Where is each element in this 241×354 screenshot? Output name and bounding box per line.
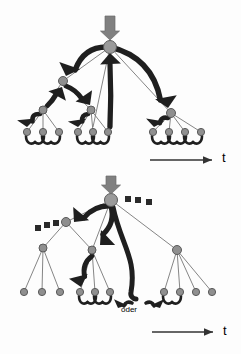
axis-label-t-bottom: t	[223, 323, 227, 338]
tree-node	[165, 128, 172, 135]
tree-node	[62, 218, 71, 227]
tree-node	[39, 128, 46, 135]
tree-node	[149, 128, 156, 135]
tree-node	[39, 244, 47, 252]
tree-node	[208, 288, 215, 295]
tree-node	[59, 77, 68, 86]
dashed-placeholder-r1	[135, 197, 141, 203]
tree-node	[104, 128, 111, 135]
dashed-placeholder-r0	[125, 196, 131, 202]
tree-node	[23, 128, 30, 135]
tree-node	[167, 109, 176, 118]
tree-node	[56, 288, 63, 295]
tree-node	[176, 288, 183, 295]
dashed-placeholder-l0	[53, 220, 59, 226]
figure-container: t t oder	[0, 0, 241, 354]
tree-node	[106, 288, 113, 295]
tree-node	[197, 128, 204, 135]
tree-node	[55, 128, 62, 135]
leaf-up-to-root-shaft	[110, 64, 111, 127]
tree-node	[160, 288, 167, 295]
dashed-placeholder-r2	[146, 199, 152, 205]
tree-node	[173, 246, 182, 255]
tree-node	[38, 288, 45, 295]
dashed-placeholder-l2	[35, 225, 41, 231]
tree-node	[39, 106, 47, 114]
axis-label-t-top: t	[222, 150, 226, 165]
tree-node	[20, 288, 27, 295]
oder-label: oder	[121, 305, 137, 314]
root-node	[105, 194, 118, 207]
root-node	[104, 41, 117, 54]
dashed-placeholder-l1	[44, 222, 50, 228]
tree-node	[74, 128, 81, 135]
tree-node	[76, 288, 83, 295]
diagram-canvas	[0, 0, 241, 354]
tree-node	[89, 128, 96, 135]
tree-node	[87, 106, 95, 114]
tree-node	[181, 128, 188, 135]
tree-node	[192, 288, 199, 295]
tree-node	[91, 288, 98, 295]
tree-node	[88, 246, 96, 254]
